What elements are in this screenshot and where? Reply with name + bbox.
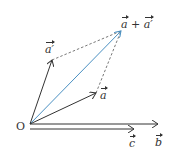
label-a-text: a: [100, 90, 107, 101]
origin-label: O: [16, 121, 25, 132]
label-a-prime-text: a′: [45, 44, 54, 55]
label-sum-plus: +: [131, 18, 140, 31]
label-a-plus-a-prime: a + a′: [121, 19, 153, 30]
vector-diagram: O a′ a + a′ a c b: [0, 0, 171, 155]
vector-a: [30, 93, 96, 124]
label-c: c: [129, 138, 135, 149]
vector-a-plus-a-prime: [30, 31, 121, 124]
vector-a-prime: [30, 60, 52, 124]
label-a: a: [100, 90, 107, 101]
label-sum-a-prime: a′: [144, 19, 153, 30]
label-b-text: b: [155, 137, 162, 148]
label-a-prime: a′: [45, 44, 54, 55]
dashed-line-a-prime-to-sum: [52, 31, 121, 60]
label-sum-a: a: [121, 19, 128, 30]
label-c-text: c: [129, 138, 135, 149]
label-b: b: [155, 137, 162, 148]
